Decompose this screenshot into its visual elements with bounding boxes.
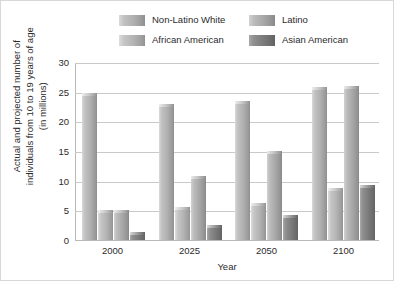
- y-axis-tick-label: 25: [58, 88, 69, 98]
- legend-item-asian-american: Asian American: [249, 35, 381, 46]
- bar-asian-american-2050: [283, 215, 298, 241]
- x-axis-title: Year: [75, 262, 379, 272]
- bar-chart-figure: Non-Latino White Latino African American…: [0, 0, 394, 281]
- legend-label-latino: Latino: [282, 15, 308, 25]
- bar-group-2100: [312, 63, 375, 240]
- bar-non-latino-white-2000: [82, 93, 97, 240]
- legend-swatch-icon-asian-american: [249, 35, 275, 46]
- bar-non-latino-white-2050: [235, 101, 250, 240]
- bar-african-american-2100: [328, 188, 343, 240]
- x-axis-tick-label-2050: 2050: [235, 246, 298, 260]
- y-axis-tick-label: 0: [64, 236, 69, 246]
- x-axis-tick-label-2000: 2000: [81, 246, 144, 260]
- legend-item-non-latino-white: Non-Latino White: [119, 15, 249, 26]
- bar-group-2000: [82, 63, 145, 240]
- y-axis-title-line: individuals from 10 to 19 years of age: [24, 11, 37, 201]
- x-axis-tick-label-2025: 2025: [158, 246, 221, 260]
- bar-latino-2000: [114, 210, 129, 240]
- legend-swatch-icon-african-american: [119, 35, 145, 46]
- chart-legend: Non-Latino White Latino African American…: [119, 10, 381, 50]
- legend-swatch-icon-latino: [249, 15, 275, 26]
- bar-latino-2050: [267, 151, 282, 240]
- y-axis-tick-label: 5: [64, 207, 69, 217]
- legend-label-african-american: African American: [152, 35, 224, 45]
- bar-non-latino-white-2100: [312, 87, 327, 240]
- y-axis-title-line: Actual and projected number of: [11, 11, 24, 201]
- bar-group-2050: [235, 63, 298, 240]
- bar-non-latino-white-2025: [159, 104, 174, 240]
- bar-african-american-2025: [175, 207, 190, 240]
- legend-label-non-latino-white: Non-Latino White: [152, 15, 225, 25]
- y-axis-title: Actual and projected number ofindividual…: [11, 11, 49, 201]
- bar-latino-2025: [191, 176, 206, 240]
- x-axis-tick-labels: 2000202520502100: [75, 246, 379, 260]
- bar-asian-american-2025: [207, 225, 222, 240]
- legend-swatch-icon-non-latino-white: [119, 15, 145, 26]
- legend-label-asian-american: Asian American: [282, 35, 348, 45]
- bar-groups: [76, 63, 379, 240]
- y-axis-tick-label: 20: [58, 118, 69, 128]
- bar-asian-american-2100: [360, 185, 375, 240]
- legend-item-latino: Latino: [249, 15, 381, 26]
- bar-asian-american-2000: [130, 232, 145, 240]
- bar-latino-2100: [344, 86, 359, 240]
- y-axis-title-line: (in millions): [36, 11, 49, 201]
- legend-item-african-american: African American: [119, 35, 249, 46]
- bar-african-american-2050: [251, 203, 266, 240]
- bar-group-2025: [159, 63, 222, 240]
- x-axis-tick-label-2100: 2100: [312, 246, 375, 260]
- y-axis-tick-label: 30: [58, 58, 69, 68]
- y-axis-tick-label: 10: [58, 177, 69, 187]
- bar-african-american-2000: [98, 210, 113, 240]
- plot-area: 051015202530: [75, 63, 379, 241]
- y-axis-tick-label: 15: [58, 147, 69, 157]
